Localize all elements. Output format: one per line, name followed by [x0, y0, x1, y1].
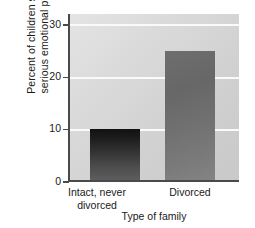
x-category-label-divorced-line-1: Divorced: [152, 186, 228, 199]
y-tick-label-0-wrap: 0: [37, 176, 61, 187]
y-tick-label-10-wrap: 10: [37, 123, 61, 134]
y-tick-label-30: 30: [39, 19, 61, 30]
bar-chart-figure: Percent of children showing serious emot…: [0, 0, 255, 228]
bar-divorced: [165, 51, 215, 181]
y-axis-line: [68, 14, 70, 181]
x-category-label-intact-line-1: Intact, never: [62, 186, 132, 199]
y-tick-label-10: 10: [39, 123, 61, 134]
bar-intact-never-divorced: [90, 129, 140, 181]
gridline-30: [69, 24, 239, 26]
y-tick-label-20: 20: [39, 71, 61, 82]
plot-area: [69, 14, 239, 181]
x-category-label-intact-never-divorced: Intact, never divorced: [62, 186, 132, 211]
y-tick-label-30-wrap: 30: [37, 19, 61, 30]
x-axis-title: Type of family: [69, 210, 239, 222]
y-tick-label-20-wrap: 20: [37, 71, 61, 82]
x-axis-line: [68, 180, 239, 182]
y-tick-label-0: 0: [39, 176, 61, 187]
x-category-label-divorced: Divorced: [152, 186, 228, 199]
